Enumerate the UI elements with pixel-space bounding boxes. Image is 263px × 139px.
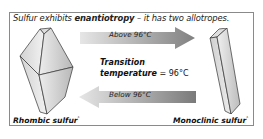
caption-rhombic-mark: * [78, 115, 80, 120]
caption-monoclinic: Monoclinic sulfur* [173, 115, 248, 125]
monoclinic-crystal-icon [205, 28, 243, 114]
transition-label-line1: Transition [100, 57, 189, 68]
headline-prefix: Sulfur exhibits [13, 13, 74, 23]
caption-rhombic: Rhombic sulfur* [13, 115, 80, 125]
arrow-label-above: Above 96°C [109, 30, 152, 39]
caption-monoclinic-text: Monoclinic sulfur [173, 116, 246, 125]
rhombic-crystal-icon [18, 27, 76, 115]
caption-rhombic-text: Rhombic sulfur [13, 116, 78, 125]
transition-label-line2: temperature [100, 69, 157, 78]
transition-value: = 96°C [157, 69, 189, 78]
caption-monoclinic-mark: * [246, 115, 248, 120]
headline-suffix: – it has two allotropes. [134, 13, 229, 23]
arrow-label-below: Below 96°C [109, 90, 151, 99]
headline: Sulfur exhibits enantiotropy – it has tw… [13, 13, 229, 23]
transition-temperature: Transition temperature = 96°C [100, 57, 189, 79]
headline-term: enantiotropy [74, 13, 134, 23]
